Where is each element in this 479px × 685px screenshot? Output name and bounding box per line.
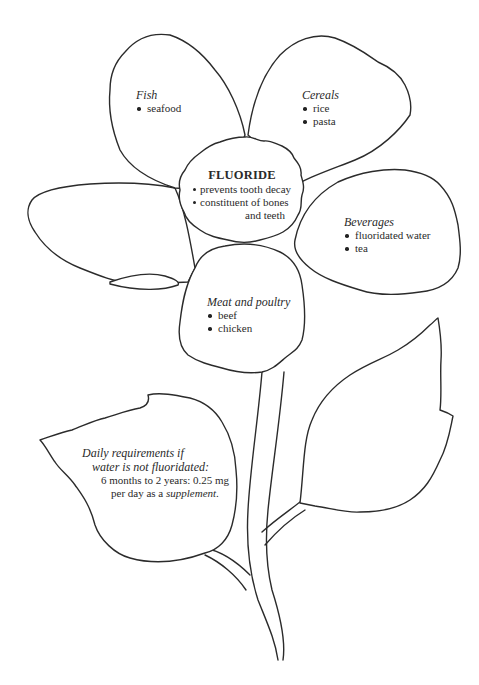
- petal-item: chicken: [207, 322, 290, 335]
- petal-title-meat: Meat and poultry: [207, 295, 290, 309]
- petal-label-cereals: Cereals rice pasta: [302, 88, 339, 128]
- petal-label-fish: Fish seafood: [136, 88, 181, 115]
- leaf-note-line3: 6 months to 2 years: 0.25 mg: [82, 474, 229, 487]
- petal-item: fluoridated water: [344, 229, 430, 242]
- stem-outline-left: [247, 372, 278, 660]
- flower-illustration: [0, 0, 479, 685]
- petal-item: rice: [302, 102, 339, 115]
- center-title: FLUORIDE: [193, 168, 291, 183]
- right-leaf: [300, 318, 453, 512]
- leaf-note-daily-requirements: Daily requirements if water is not fluor…: [82, 446, 229, 500]
- leaf-note-line4-emphasis: supplement: [166, 487, 216, 499]
- petal-label-meat: Meat and poultry beef chicken: [207, 295, 290, 335]
- branch-left-upper: [205, 555, 246, 590]
- petal-item: seafood: [136, 102, 181, 115]
- petal-item: beef: [207, 309, 290, 322]
- center-bullet: prevents tooth decay: [193, 183, 291, 196]
- petal-title-fish: Fish: [136, 88, 181, 102]
- petal-items-meat: beef chicken: [207, 309, 290, 335]
- petal-title-cereals: Cereals: [302, 88, 339, 102]
- center-bullets: prevents tooth decay constituent of bone…: [193, 183, 291, 209]
- petal-items-fish: seafood: [136, 102, 181, 115]
- branch-right-lower: [265, 510, 305, 545]
- petal-items-beverages: fluoridated water tea: [344, 229, 430, 255]
- petal-title-beverages: Beverages: [344, 215, 430, 229]
- branch-left-lower: [205, 548, 250, 575]
- leaf-note-line2: water is not fluoridated:: [82, 460, 229, 474]
- petal-item: pasta: [302, 115, 339, 128]
- petal-left-blank: [28, 183, 195, 283]
- center-label-fluoride: FLUORIDE prevents tooth decay constituen…: [193, 168, 291, 222]
- petal-items-cereals: rice pasta: [302, 102, 339, 128]
- petal-label-beverages: Beverages fluoridated water tea: [344, 215, 430, 255]
- leaf-note-line4: per day as a supplement.: [82, 487, 229, 500]
- leaf-note-line4-prefix: per day as a: [111, 487, 166, 499]
- center-bullet-continuation: and teeth: [193, 209, 291, 222]
- petal-item: tea: [344, 242, 430, 255]
- center-bullet: constituent of bones: [193, 196, 291, 209]
- leaf-note-line4-suffix: .: [216, 487, 219, 499]
- leaf-note-line1: Daily requirements if: [82, 446, 229, 460]
